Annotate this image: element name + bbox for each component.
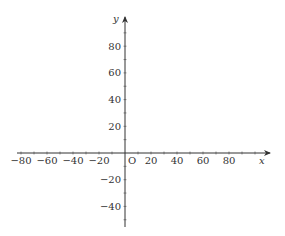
minor-ticks <box>21 33 255 220</box>
y-tick-label: 40 <box>108 94 121 105</box>
y-axis-label: y <box>112 13 119 24</box>
y-tick-label: −20 <box>100 174 121 185</box>
x-tick-label: −60 <box>36 155 57 166</box>
x-tick-label: 40 <box>171 155 184 166</box>
origin-label: O <box>128 155 136 166</box>
coordinate-plane: −80−60−40−2020406080 −40−2020406080 O x … <box>0 0 285 236</box>
x-tick-label: 80 <box>223 155 236 166</box>
x-tick-label: 60 <box>197 155 210 166</box>
y-tick-label: 80 <box>108 41 121 52</box>
y-tick-label: 60 <box>108 67 121 78</box>
y-tick-labels: −40−2020406080 <box>100 41 121 212</box>
y-tick-label: 20 <box>108 121 121 132</box>
x-tick-label: −40 <box>62 155 83 166</box>
x-tick-label: 20 <box>145 155 158 166</box>
x-tick-label: −80 <box>10 155 31 166</box>
x-tick-labels: −80−60−40−2020406080 <box>10 155 235 166</box>
x-tick-label: −20 <box>88 155 109 166</box>
y-tick-label: −40 <box>100 201 121 212</box>
x-axis-label: x <box>259 155 265 166</box>
